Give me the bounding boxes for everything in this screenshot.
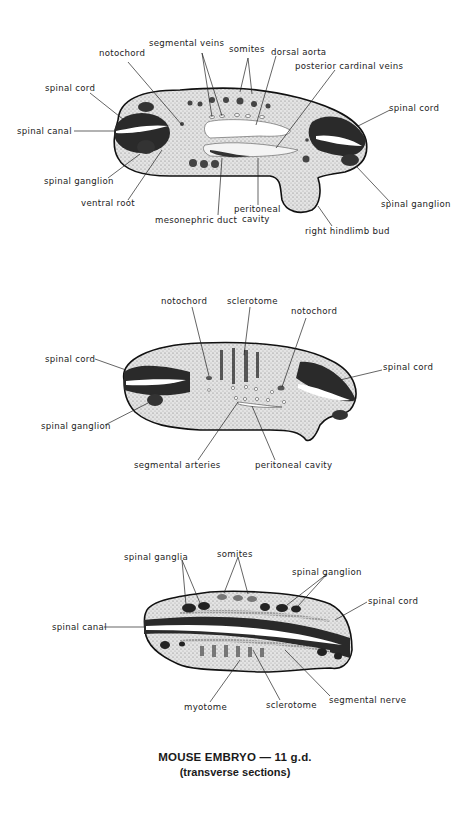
- label-spinal-cord-right: spinal cord: [383, 363, 433, 372]
- label-segmental-arteries: segmental arteries: [134, 461, 221, 470]
- label-spinal-ganglia: spinal ganglia: [124, 553, 188, 562]
- label-peritoneal-cavity-line1: peritoneal: [234, 205, 281, 214]
- label-segmental-nerve: segmental nerve: [329, 696, 406, 705]
- label-somites: somites: [229, 45, 265, 54]
- embryo-figure: notochord segmental veins somites dorsal…: [0, 0, 470, 823]
- label-spinal-ganglion: spinal ganglion: [41, 422, 111, 431]
- label-mesonephric-duct: mesonephric duct: [155, 216, 237, 225]
- label-dorsal-aorta: dorsal aorta: [271, 48, 326, 57]
- figure-caption-title: MOUSE EMBRYO — 11 g.d.: [0, 751, 470, 763]
- label-notochord-left: notochord: [161, 297, 207, 306]
- label-spinal-cord-right: spinal cord: [389, 104, 439, 113]
- label-spinal-canal: spinal canal: [17, 127, 72, 136]
- label-spinal-cord-left: spinal cord: [45, 84, 95, 93]
- label-sclerotome: sclerotome: [227, 297, 278, 306]
- label-somites: somites: [217, 550, 253, 559]
- label-notochord-right: notochord: [291, 307, 337, 316]
- label-peritoneal-cavity-line2: cavity: [242, 215, 270, 224]
- figure-caption-subtitle: (transverse sections): [0, 766, 470, 778]
- label-segmental-veins: segmental veins: [149, 39, 224, 48]
- label-right-hindlimb-bud: right hindlimb bud: [305, 227, 390, 236]
- label-spinal-canal: spinal canal: [52, 623, 107, 632]
- label-ventral-root: ventral root: [81, 199, 135, 208]
- label-spinal-cord: spinal cord: [368, 597, 418, 606]
- section-2-drawing: [124, 343, 356, 441]
- label-sclerotome: sclerotome: [266, 701, 317, 710]
- section-1-drawing: [114, 88, 367, 212]
- label-notochord: notochord: [99, 49, 145, 58]
- label-peritoneal-cavity: peritoneal cavity: [255, 461, 332, 470]
- label-spinal-cord-left: spinal cord: [45, 355, 95, 364]
- label-myotome: myotome: [184, 703, 227, 712]
- section-3-drawing: [144, 591, 352, 672]
- label-posterior-cardinal-veins: posterior cardinal veins: [295, 62, 403, 71]
- label-spinal-ganglion: spinal ganglion: [292, 568, 362, 577]
- label-spinal-ganglion-left: spinal ganglion: [44, 177, 114, 186]
- label-spinal-ganglion-right: spinal ganglion: [381, 200, 451, 209]
